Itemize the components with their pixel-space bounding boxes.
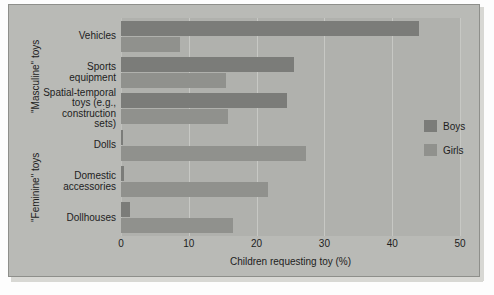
x-tick-label-0: 0 — [101, 238, 141, 249]
category-label-line: Sports — [11, 62, 116, 73]
category-label-line: sets) — [11, 119, 116, 130]
x-tick-label-30: 30 — [304, 238, 344, 249]
bar-boys-3 — [121, 130, 123, 145]
category-label-line: Dolls — [11, 140, 116, 151]
category-label-0: Vehicles — [11, 31, 116, 42]
category-label-line: Domestic — [11, 171, 116, 182]
gridline-30 — [324, 18, 325, 236]
bar-girls-2 — [121, 109, 228, 124]
category-label-1: Sportsequipment — [11, 62, 116, 83]
bar-girls-3 — [121, 146, 306, 161]
category-label-3: Dolls — [11, 140, 116, 151]
bar-girls-1 — [121, 73, 226, 88]
bar-boys-0 — [121, 21, 419, 36]
x-tick-label-50: 50 — [440, 238, 480, 249]
plate-shadow-bottom — [11, 277, 483, 282]
legend-swatch-girls — [424, 144, 437, 156]
legend-swatch-boys — [424, 120, 437, 132]
gridline-40 — [392, 18, 393, 236]
category-label-line: Vehicles — [11, 31, 116, 42]
x-tick-label-20: 20 — [237, 238, 277, 249]
chart-screenshot: "Masculine" toys"Feminine" toys Vehicles… — [0, 0, 494, 295]
bar-boys-1 — [121, 57, 294, 72]
bar-girls-0 — [121, 37, 180, 52]
gridline-20 — [257, 18, 258, 236]
category-label-5: Dollhouses — [11, 213, 116, 224]
x-tick-label-40: 40 — [372, 238, 412, 249]
legend-label-boys: Boys — [443, 121, 465, 132]
category-label-line: equipment — [11, 73, 116, 84]
plot-area — [121, 18, 460, 236]
gridline-10 — [189, 18, 190, 236]
category-label-container: VehiclesSportsequipmentSpatial-temporalt… — [8, 18, 116, 236]
category-label-line: accessories — [11, 182, 116, 193]
category-label-4: Domesticaccessories — [11, 171, 116, 192]
bar-girls-5 — [121, 218, 233, 233]
category-label-2: Spatial-temporaltoys (e.g.,constructions… — [11, 88, 116, 130]
figure-plate: "Masculine" toys"Feminine" toys Vehicles… — [8, 4, 480, 277]
x-tick-label-10: 10 — [169, 238, 209, 249]
bar-boys-2 — [121, 93, 287, 108]
legend: BoysGirls — [424, 120, 494, 168]
legend-item-boys: Boys — [424, 120, 494, 132]
category-label-line: Dollhouses — [11, 213, 116, 224]
bar-boys-4 — [121, 166, 124, 181]
legend-item-girls: Girls — [424, 144, 494, 156]
x-axis-label: Children requesting toy (%) — [121, 256, 460, 267]
bar-girls-4 — [121, 182, 268, 197]
bar-boys-5 — [121, 202, 130, 217]
legend-label-girls: Girls — [443, 145, 464, 156]
